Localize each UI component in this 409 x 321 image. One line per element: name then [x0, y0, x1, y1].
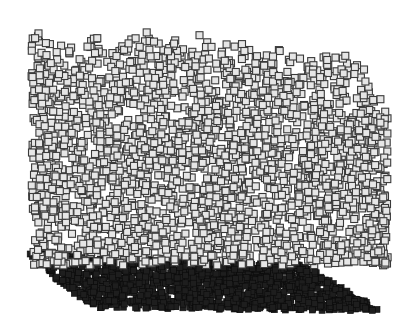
light-cloud-particles: [28, 29, 391, 269]
particle-scene: [0, 0, 409, 321]
